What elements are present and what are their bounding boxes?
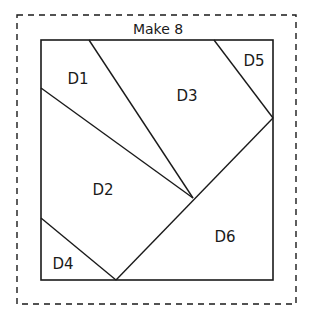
seam-line-d3-d6 (116, 118, 273, 280)
piece-label-d1: D1 (67, 70, 88, 88)
paper-piecing-diagram: Make 8 D1 D2 D3 D4 D5 D6 (0, 0, 314, 316)
piece-label-d6: D6 (214, 228, 235, 246)
diagram-title: Make 8 (133, 21, 183, 37)
piece-label-d2: D2 (92, 181, 113, 199)
piece-label-d4: D4 (52, 255, 73, 273)
seam-line-d1-d3 (89, 40, 193, 198)
piece-label-d5: D5 (243, 52, 264, 70)
piece-label-d3: D3 (176, 87, 197, 105)
seam-line-d1-d2 (41, 88, 193, 198)
